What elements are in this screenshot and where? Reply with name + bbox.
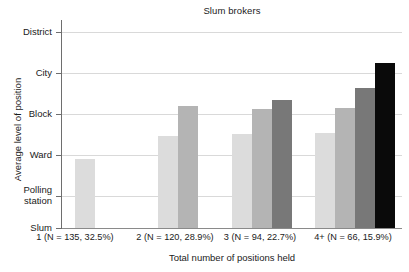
y-tick-label-city: City: [0, 68, 52, 78]
x-tick-label-g3: 3 (N = 94, 22.7%): [212, 232, 308, 242]
y-axis-spine: [61, 20, 62, 229]
x-tick-label-g4: 4+ (N = 66, 15.9%): [303, 232, 403, 242]
gridline-district: [62, 32, 402, 33]
y-tick-ward: [56, 155, 62, 156]
bar-g1-s1: [75, 159, 95, 228]
y-tick-block: [56, 114, 62, 115]
y-tick-label-polling-station-line1: Polling: [0, 185, 52, 195]
y-tick-label-block: Block: [0, 109, 52, 119]
bar-g4-s4: [375, 63, 395, 228]
y-tick-city: [56, 73, 62, 74]
bar-g2-s2: [178, 106, 198, 228]
bar-g4-s1: [315, 133, 335, 228]
x-tick-label-g2: 2 (N = 120, 28.9%): [125, 232, 225, 242]
y-tick-label-ward: Ward: [0, 150, 52, 160]
gridline-city: [62, 73, 402, 74]
x-tick-label-g1: 1 (N = 135, 32.5%): [25, 232, 125, 242]
chart-figure: Slum brokers Average level of position T…: [0, 0, 409, 272]
y-tick-label-polling-station-line2: station: [0, 196, 52, 206]
bar-g2-s1: [158, 136, 178, 228]
chart-title: Slum brokers: [62, 5, 402, 16]
plot-area: [62, 20, 402, 228]
y-tick-label-district: District: [0, 27, 52, 37]
bar-g3-s3: [272, 100, 292, 228]
bar-g3-s2: [252, 109, 272, 228]
y-tick-slum: [56, 228, 62, 229]
y-tick-district: [56, 32, 62, 33]
y-tick-polling-station: [56, 196, 62, 197]
x-axis-title: Total number of positions held: [62, 252, 402, 263]
bar-g4-s2: [335, 108, 355, 228]
bar-g4-s3: [355, 88, 375, 228]
x-axis-spine: [62, 228, 402, 229]
bar-g3-s1: [232, 134, 252, 228]
